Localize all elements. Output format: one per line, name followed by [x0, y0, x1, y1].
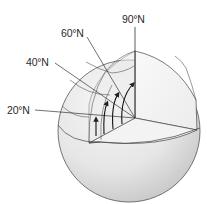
label-20n: 20°N — [7, 105, 30, 116]
label-90n: 90°N — [122, 14, 145, 25]
globe-graphic — [0, 0, 207, 204]
globe-diagram: 90°N 60°N 40°N 20°N — [0, 0, 207, 204]
label-40n: 40°N — [26, 57, 49, 68]
label-60n: 60°N — [61, 28, 84, 39]
